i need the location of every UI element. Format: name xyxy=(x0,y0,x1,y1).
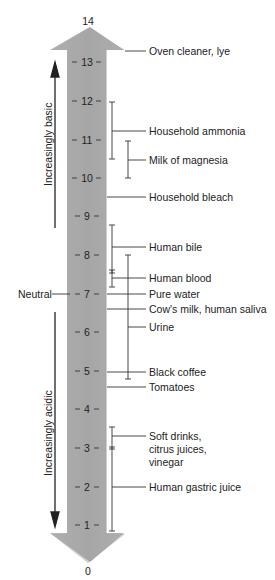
tick-9: 9 xyxy=(62,210,112,222)
item-milk-of-magnesia: Milk of magnesia xyxy=(149,154,228,167)
item-human-bile: Human bile xyxy=(149,241,202,254)
item-human-gastric-juice: Human gastric juice xyxy=(149,481,241,494)
item-oven-cleaner: Oven cleaner, lye xyxy=(149,45,230,58)
item-cows-milk: Cow's milk, human saliva xyxy=(149,303,267,316)
tick-4: 4 xyxy=(62,403,112,415)
neutral-label: Neutral xyxy=(18,288,52,300)
tick-3: 3 xyxy=(62,442,112,454)
tick-11: 11 xyxy=(62,134,112,146)
tick-7: 7 xyxy=(62,288,112,300)
tick-8: 8 xyxy=(62,249,112,261)
item-household-bleach: Household bleach xyxy=(149,191,233,204)
item-black-coffee: Black coffee xyxy=(149,366,206,379)
item-household-ammonia: Household ammonia xyxy=(149,125,245,138)
item-soft-drinks-line1: Soft drinks, xyxy=(149,430,202,443)
tick-13: 13 xyxy=(62,56,112,68)
tick-2: 2 xyxy=(62,481,112,493)
item-soft-drinks-line2: citrus juices, xyxy=(149,443,207,456)
item-urine: Urine xyxy=(149,321,174,334)
tick-6: 6 xyxy=(62,326,112,338)
item-tomatoes: Tomatoes xyxy=(149,381,195,394)
scale-top-label: 14 xyxy=(73,15,103,27)
tick-1: 1 xyxy=(62,519,112,531)
item-pure-water: Pure water xyxy=(149,288,200,301)
tick-5: 5 xyxy=(62,365,112,377)
increasingly-basic-label: Increasingly basic xyxy=(42,103,54,186)
tick-10: 10 xyxy=(62,172,112,184)
scale-bottom-label: 0 xyxy=(73,565,103,577)
increasingly-acidic-label: Increasingly acidic xyxy=(42,390,54,476)
tick-12: 12 xyxy=(62,95,112,107)
item-soft-drinks-line3: vinegar xyxy=(149,456,183,469)
item-human-blood: Human blood xyxy=(149,272,211,285)
